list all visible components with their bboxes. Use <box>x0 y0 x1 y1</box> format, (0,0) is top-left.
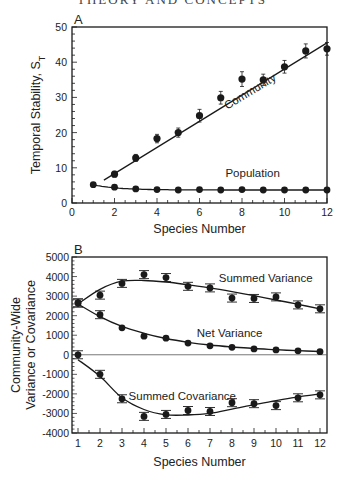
summed-covariance-point <box>295 394 302 401</box>
net-variance-point <box>163 335 170 342</box>
summed-covariance-point <box>251 400 258 407</box>
y-tick-label: 0 <box>61 197 67 209</box>
population-point <box>154 186 161 193</box>
summed-covariance-point <box>163 411 170 418</box>
net-variance-point <box>75 300 82 307</box>
x-tick-label: 2 <box>112 206 118 218</box>
summed-variance-point <box>207 284 214 291</box>
summed-variance-label: Summed Variance <box>219 272 313 284</box>
community-point <box>153 135 160 142</box>
y-axis-title-line2: Variance or Covariance <box>24 280 38 410</box>
summed-covariance-point <box>185 407 192 414</box>
population-point <box>132 186 139 193</box>
summed-variance-point <box>97 292 104 299</box>
panel-label: B <box>74 242 83 257</box>
net-variance-point <box>185 340 192 347</box>
net-variance-point <box>273 346 280 353</box>
x-axis-title: Species Number <box>153 455 245 469</box>
net-variance-point <box>317 348 324 355</box>
y-tick-label: 4000 <box>46 271 70 283</box>
summed-covariance-point <box>207 408 214 415</box>
x-tick-label: 2 <box>97 437 103 449</box>
population-fit-line <box>93 185 327 190</box>
y-tick-label: 50 <box>55 21 67 33</box>
population-point <box>281 187 288 194</box>
y-tick-label: 30 <box>55 91 67 103</box>
community-point <box>238 75 245 82</box>
x-tick-label: 8 <box>229 437 235 449</box>
x-tick-label: 10 <box>279 206 291 218</box>
summed-variance-point <box>229 295 236 302</box>
population-point <box>196 186 203 193</box>
x-tick-label: 4 <box>154 206 160 218</box>
y-tick-label: -2000 <box>42 388 69 400</box>
y-tick-label: 2000 <box>46 310 70 322</box>
y-tick-label: 10 <box>55 162 67 174</box>
summed-variance-point <box>185 283 192 290</box>
panel-b: B123456789101112500040003000200010000-10… <box>9 242 327 469</box>
x-tick-label: 12 <box>321 206 333 218</box>
net-variance-point <box>97 311 104 318</box>
community-point <box>196 112 203 119</box>
y-tick-label: 40 <box>55 56 67 68</box>
x-tick-label: 11 <box>293 437 304 449</box>
net-variance-point <box>119 324 126 331</box>
community-point <box>281 63 288 70</box>
x-tick-label: 1 <box>75 437 81 449</box>
net-variance-point <box>295 347 302 354</box>
summed-variance-point <box>141 271 148 278</box>
y-axis-title: Temporal Stability, ST <box>29 55 47 174</box>
population-point <box>111 184 118 191</box>
x-tick-label: 12 <box>314 437 326 449</box>
population-point <box>175 187 182 194</box>
figure-chart: A02468101201020304050Species NumberTempo… <box>0 0 344 481</box>
net-variance-point <box>229 344 236 351</box>
x-tick-label: 5 <box>163 437 169 449</box>
summed-variance-point <box>273 293 280 300</box>
summed-covariance-point <box>317 391 324 398</box>
y-tick-label: -1000 <box>42 368 69 380</box>
summed-covariance-point <box>273 402 280 409</box>
summed-variance-fit-line <box>78 280 320 309</box>
x-tick-label: 3 <box>119 437 125 449</box>
summed-variance-point <box>295 302 302 309</box>
x-axis-title: Species Number <box>153 222 245 236</box>
x-tick-label: 10 <box>270 437 282 449</box>
population-series-label: Population <box>225 167 279 179</box>
community-point <box>111 171 118 178</box>
y-tick-label: 3000 <box>46 290 70 302</box>
summed-variance-point <box>163 274 170 281</box>
community-point <box>132 154 139 161</box>
y-tick-label: -4000 <box>42 427 69 439</box>
community-point <box>323 45 330 52</box>
y-tick-label: 5000 <box>46 251 70 263</box>
net-variance-point <box>141 333 148 340</box>
summed-covariance-point <box>119 395 126 402</box>
panel-a: A02468101201020304050Species NumberTempo… <box>29 12 333 236</box>
population-point <box>90 181 97 188</box>
y-tick-label: 20 <box>55 127 67 139</box>
population-point <box>239 186 246 193</box>
population-point <box>217 187 224 194</box>
x-tick-label: 9 <box>251 437 257 449</box>
y-tick-label: 0 <box>63 349 69 361</box>
summed-covariance-point <box>75 351 82 358</box>
panel-label: A <box>74 12 83 27</box>
community-point <box>175 129 182 136</box>
x-tick-label: 6 <box>185 437 191 449</box>
summed-covariance-label: Summed Covariance <box>129 390 236 402</box>
population-point <box>302 187 309 194</box>
y-tick-label: 1000 <box>46 329 70 341</box>
community-series-label: Community <box>222 71 278 111</box>
summed-covariance-fit-line <box>78 360 320 416</box>
x-tick-label: 6 <box>197 206 203 218</box>
y-tick-label: -3000 <box>42 407 69 419</box>
summed-covariance-point <box>97 371 104 378</box>
x-tick-label: 8 <box>239 206 245 218</box>
summed-variance-point <box>119 280 126 287</box>
population-point <box>260 187 267 194</box>
population-point <box>324 187 331 194</box>
net-variance-point <box>251 346 258 353</box>
x-tick-label: 0 <box>69 206 75 218</box>
summed-variance-point <box>251 295 258 302</box>
